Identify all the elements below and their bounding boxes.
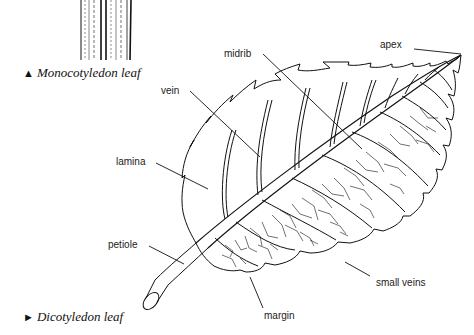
midrib-leader: [263, 54, 362, 149]
leaf-diagram: apex midrib vein lamina petiole small ve…: [0, 0, 474, 335]
vein-leader: [190, 91, 260, 157]
dicot-caption-text: Dicotyledon leaf: [37, 309, 123, 324]
petiole-leader: [149, 246, 184, 264]
triangle-right-icon: ►: [23, 311, 34, 323]
monocot-caption: ▲Monocotyledon leaf: [23, 66, 141, 79]
dicot-caption: ►Dicotyledon leaf: [23, 310, 123, 323]
monocot-leaf-illustration: [81, 0, 131, 60]
monocot-caption-text: Monocotyledon leaf: [37, 65, 141, 80]
label-lamina: lamina: [116, 157, 145, 167]
leader-lines: [149, 49, 461, 308]
label-midrib: midrib: [224, 49, 251, 59]
apex-leader: [414, 49, 461, 54]
label-apex: apex: [380, 40, 402, 50]
label-margin: margin: [264, 311, 295, 321]
small-veins-leader: [345, 262, 370, 276]
triangle-up-icon: ▲: [23, 67, 34, 79]
margin-leader: [250, 277, 263, 308]
dicot-leaf-illustration: [140, 55, 461, 313]
label-petiole: petiole: [108, 240, 137, 250]
lamina-leader: [156, 163, 208, 189]
small-veins-network: [222, 108, 438, 267]
label-vein: vein: [161, 86, 179, 96]
label-small-veins: small veins: [376, 278, 425, 288]
